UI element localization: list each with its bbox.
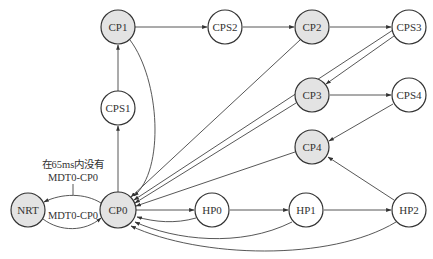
svg-text:HP2: HP2 [399,204,419,216]
timeout-label-line1: 在65ms内没有 [42,158,105,170]
edge-hp2-cp0 [131,222,396,251]
node-cp3: CP3 [295,78,329,112]
node-cps3: CPS3 [392,10,426,44]
svg-text:CP2: CP2 [303,21,322,33]
node-cps4: CPS4 [392,78,426,112]
svg-text:CPS3: CPS3 [396,21,422,33]
node-hp1: HP1 [289,193,323,227]
node-hp2: HP2 [392,193,426,227]
return-label: MDT0-CP0 [48,210,98,221]
svg-text:HP1: HP1 [296,204,316,216]
svg-text:HP0: HP0 [202,204,222,216]
svg-text:CPS4: CPS4 [396,89,422,101]
node-cp4: CP4 [295,130,329,164]
state-diagram: 在65ms内没有 MDT0-CP0 MDT0-CP0 CP1 CPS2 CP2 … [0,0,433,259]
node-nrt: NRT [11,193,45,227]
edge-cps3-cp3 [326,36,394,84]
svg-text:CPS2: CPS2 [212,21,237,33]
node-cp2: CP2 [295,10,329,44]
edge-hp2-cp4 [328,157,394,200]
svg-text:CP3: CP3 [303,89,322,101]
svg-text:CP1: CP1 [109,21,128,33]
edge-cps4-cp4 [329,104,393,141]
node-cps1: CPS1 [101,91,135,125]
svg-text:CPS1: CPS1 [105,102,130,114]
edge-cp0-nrt [44,195,101,203]
node-cp1: CP1 [101,10,135,44]
edge-hp0-cp0 [137,217,196,222]
edge-cp2-cp0 [131,40,300,197]
node-cp0: CP0 [100,192,136,228]
svg-text:CP0: CP0 [109,204,128,216]
svg-text:NRT: NRT [17,204,39,216]
node-cps2: CPS2 [208,10,242,44]
node-hp0: HP0 [195,193,229,227]
edge-cp1-cp0 [130,40,155,196]
svg-text:CP4: CP4 [303,141,322,153]
timeout-label-line2: MDT0-CP0 [48,172,98,183]
